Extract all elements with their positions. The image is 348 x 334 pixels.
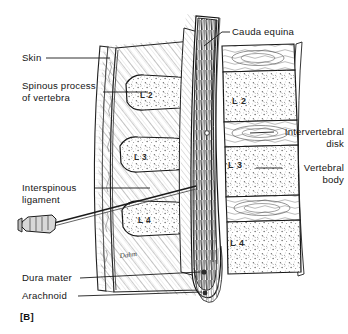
label-interspinous-ligament: Interspinous ligament [22, 182, 77, 205]
spinous-process-label-l3: L 3 [134, 153, 147, 162]
vertebral-body-label-l3: L 3 [228, 160, 242, 170]
spinous-process-label-l4: L 4 [138, 216, 151, 225]
panel-letter: [B] [20, 311, 34, 322]
label-dura-mater: Dura mater [22, 272, 72, 284]
spinous-process-label-l2: L 2 [140, 91, 153, 100]
spinal-canal-dural-sac [191, 16, 222, 302]
vertebral-body-label-l2: L 2 [232, 96, 246, 106]
anatomy-figure-lumbar-puncture: Dahm Skin Spinous process of vertebra In… [0, 0, 348, 334]
label-vertebral-body: Vertebral body [258, 162, 344, 185]
vertebral-body-label-l4: L 4 [230, 238, 244, 248]
label-skin: Skin [22, 52, 41, 64]
label-cauda-equina: Cauda equina [232, 26, 294, 38]
label-arachnoid: Arachnoid [22, 290, 67, 302]
label-spinous-process-of-vertebra: Spinous process of vertebra [22, 80, 96, 103]
label-intervertebral-disk: Intervertebral disk [258, 126, 344, 149]
